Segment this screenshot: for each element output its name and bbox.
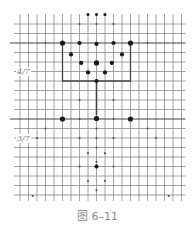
- pattern-dot: [112, 99, 114, 101]
- pattern-dot: [94, 79, 98, 83]
- pattern-dot: [94, 60, 99, 65]
- pattern-dot: [95, 161, 97, 163]
- pattern-dot: [112, 165, 114, 167]
- pattern-dot: [94, 164, 98, 168]
- pattern-dot: [36, 137, 38, 139]
- pattern-dot: [104, 180, 106, 182]
- pattern-dot: [104, 152, 106, 154]
- pattern-dot: [94, 116, 99, 121]
- pattern-dot: [60, 40, 65, 45]
- pattern-dot: [78, 165, 80, 167]
- pattern-dot: [32, 195, 34, 197]
- pattern-dot: [78, 118, 80, 120]
- pattern-dot: [111, 41, 115, 45]
- pattern-dot: [44, 127, 46, 129]
- pattern-dot: [103, 70, 107, 74]
- pattern-dot: [87, 152, 89, 154]
- pattern-dot: [110, 61, 114, 65]
- pattern-dot: [77, 41, 81, 45]
- pattern-dot: [78, 23, 80, 25]
- pattern-dot: [95, 13, 98, 16]
- pattern-dot: [146, 42, 148, 44]
- pattern-dot: [120, 52, 124, 56]
- pattern-dot: [104, 13, 107, 16]
- pattern-dot: [44, 42, 46, 44]
- pattern-dot: [112, 23, 114, 25]
- pattern-dot: [95, 146, 97, 148]
- pattern-dot: [60, 116, 65, 121]
- pattern-grid-diagram: [0, 0, 195, 231]
- pattern-dot: [87, 13, 90, 16]
- pattern-dot: [155, 137, 157, 139]
- pattern-dot: [95, 127, 97, 129]
- grid-lines: [10, 14, 186, 201]
- pattern-dot: [69, 52, 73, 56]
- figure-caption: 图 6–11: [0, 207, 195, 223]
- pattern-dot: [112, 137, 114, 139]
- pattern-dot: [94, 42, 98, 46]
- pattern-dot: [128, 40, 133, 45]
- fraction-label-3-7: 3/7: [16, 134, 31, 143]
- pattern-dot: [95, 137, 97, 139]
- pattern-dot: [128, 116, 133, 121]
- pattern-dot: [79, 61, 83, 65]
- pattern-dot: [86, 70, 90, 74]
- pattern-dot: [78, 137, 80, 139]
- fraction-label-4-7: 4/7: [16, 67, 31, 76]
- pattern-dot: [146, 127, 148, 129]
- pattern-dot: [168, 195, 170, 197]
- pattern-dot: [95, 189, 97, 191]
- pattern-dots: [32, 13, 170, 197]
- pattern-dot: [78, 99, 80, 101]
- pattern-dot: [95, 23, 97, 25]
- pattern-dot: [112, 118, 114, 120]
- pattern-dot: [87, 180, 89, 182]
